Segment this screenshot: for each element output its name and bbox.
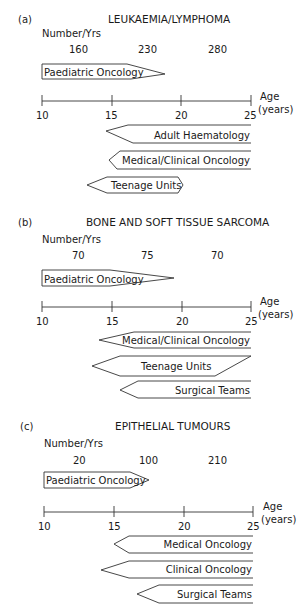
tick-15: 15 (105, 110, 118, 121)
count-age-20-25: 70 (211, 250, 224, 261)
tick-20: 20 (176, 316, 189, 327)
medical-oncology-label: Medical Oncology (164, 539, 253, 550)
tick-20: 20 (178, 521, 191, 532)
axis-label-years: (years) (261, 514, 296, 525)
panel-label: (b) (18, 217, 32, 228)
tick-25: 25 (244, 110, 257, 121)
number-per-year-label: Number/Yrs (42, 234, 101, 245)
panel-label: (c) (20, 421, 33, 432)
surgical-teams-label: Surgical Teams (175, 385, 250, 396)
tick-10: 10 (38, 521, 51, 532)
tick-10: 10 (36, 316, 49, 327)
tick-25: 25 (247, 521, 260, 532)
number-per-year-label: Number/Yrs (42, 28, 101, 39)
tick-10: 10 (36, 110, 49, 121)
adult-haematology-label: Adult Haematology (154, 130, 250, 141)
clinical-oncology-label: Clinical Oncology (166, 564, 252, 575)
panel-label: (a) (18, 14, 32, 25)
count-age-15-20: 230 (138, 44, 157, 55)
axis-label-age: Age (260, 296, 279, 307)
paediatric-oncology-label: Paediatric Oncology (46, 475, 146, 486)
paediatric-oncology-label: Paediatric Oncology (44, 274, 144, 285)
axis-label-age: Age (260, 91, 279, 102)
count-age-10-15: 160 (69, 44, 88, 55)
age-axis: 10 15 20 25 Age (years) (36, 91, 293, 121)
tick-15: 15 (108, 521, 121, 532)
count-age-15-20: 75 (141, 250, 154, 261)
panel-c: (c) EPITHELIAL TUMOURS Number/Yrs 20 100… (20, 420, 296, 603)
count-age-20-25: 210 (208, 455, 227, 466)
teenage-units-label: Teenage Units (140, 361, 211, 372)
panel-title: EPITHELIAL TUMOURS (115, 420, 231, 432)
tick-20: 20 (175, 110, 188, 121)
age-axis: 10 15 20 25 Age (years) (38, 501, 296, 532)
axis-label-age: Age (263, 501, 282, 512)
teenage-units-label: Teenage Units (110, 180, 181, 191)
panel-title: LEUKAEMIA/LYMPHOMA (108, 13, 231, 25)
paediatric-oncology-label: Paediatric Oncology (44, 67, 144, 78)
medical-clinical-oncology-label: Medical/Clinical Oncology (122, 335, 250, 346)
number-per-year-label: Number/Yrs (44, 438, 103, 449)
medical-clinical-oncology-label: Medical/Clinical Oncology (122, 155, 250, 166)
count-age-20-25: 280 (208, 44, 227, 55)
tick-15: 15 (106, 316, 119, 327)
surgical-teams-label: Surgical Teams (177, 589, 252, 600)
age-axis: 10 15 20 25 Age (years) (36, 296, 293, 327)
tick-25: 25 (245, 316, 258, 327)
count-age-10-15: 20 (73, 455, 86, 466)
axis-label-years: (years) (258, 309, 293, 320)
count-age-10-15: 70 (72, 250, 85, 261)
axis-label-years: (years) (258, 104, 293, 115)
diagram-canvas: (a) LEUKAEMIA/LYMPHOMA Number/Yrs 160 23… (0, 0, 306, 614)
count-age-15-20: 100 (139, 455, 158, 466)
panel-b: (b) BONE AND SOFT TISSUE SARCOMA Number/… (18, 216, 293, 398)
panel-a: (a) LEUKAEMIA/LYMPHOMA Number/Yrs 160 23… (18, 13, 293, 193)
panel-title: BONE AND SOFT TISSUE SARCOMA (86, 216, 270, 228)
